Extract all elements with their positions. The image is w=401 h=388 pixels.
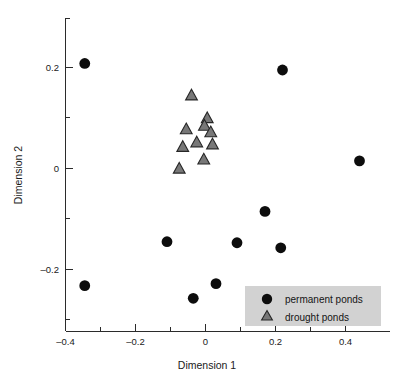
x-tick-label: –0.4	[56, 336, 75, 347]
x-tick-label: 0	[203, 336, 208, 347]
x-tick-label: 0.2	[269, 336, 282, 347]
x-tick-label: 0.4	[339, 336, 352, 347]
data-point-circle	[211, 278, 222, 289]
y-tick-label: 0.2	[46, 62, 59, 73]
data-point-circle	[188, 293, 199, 304]
legend-item-label-drought: drought ponds	[285, 312, 349, 323]
x-tick-label: –0.2	[126, 336, 145, 347]
data-point-circle	[277, 65, 288, 76]
chart-legend: permanent ponds drought ponds	[245, 286, 381, 326]
data-point-circle	[354, 156, 365, 167]
y-tick-label: –0.2	[41, 264, 60, 275]
x-axis-title: Dimension 1	[178, 359, 237, 371]
legend-item-label-permanent: permanent ponds	[285, 294, 363, 305]
plot-canvas: –0.4 –0.2 0 0.2 0.4 0.2 0 –0.2 Dimension…	[0, 0, 401, 388]
scatter-plot-figure: –0.4 –0.2 0 0.2 0.4 0.2 0 –0.2 Dimension…	[0, 0, 401, 388]
data-point-circle	[260, 206, 271, 217]
legend-circle-icon	[262, 294, 272, 304]
data-point-circle	[79, 280, 90, 291]
figure-background	[0, 0, 401, 388]
y-tick-label: 0	[54, 163, 59, 174]
data-point-circle	[275, 242, 286, 253]
data-point-circle	[79, 58, 90, 69]
data-point-circle	[162, 236, 173, 247]
y-axis-title: Dimension 2	[12, 146, 24, 205]
data-point-circle	[232, 237, 243, 248]
